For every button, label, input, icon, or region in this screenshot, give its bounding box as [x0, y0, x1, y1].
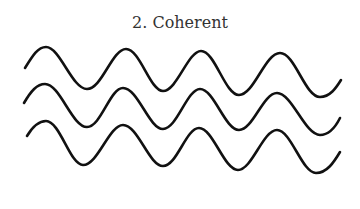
wave-2	[24, 84, 340, 135]
waves-diagram	[0, 0, 360, 209]
wave-1	[25, 47, 341, 97]
wave-3	[27, 121, 340, 173]
